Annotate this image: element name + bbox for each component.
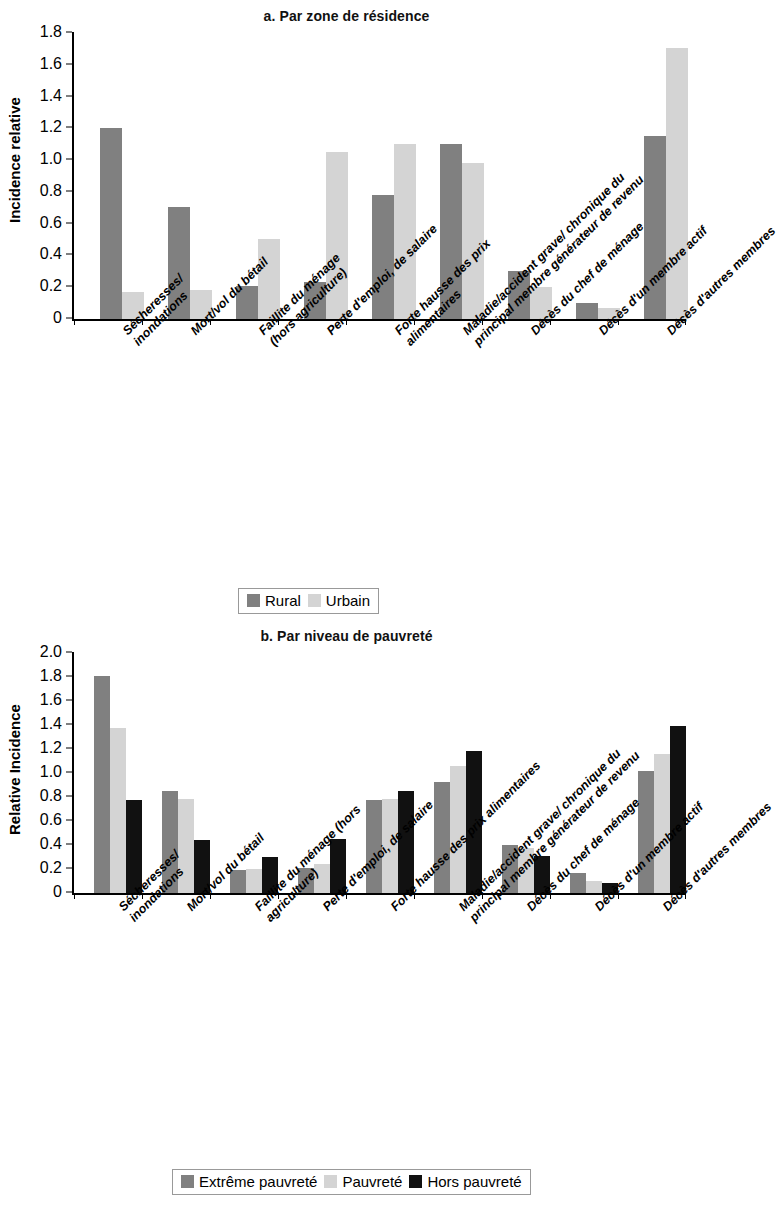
legend-swatch-icon	[247, 594, 260, 607]
panel-b-ytick-label: 1.0	[6, 763, 62, 781]
panel-a-ytick-label: 1.6	[6, 55, 62, 73]
panel-a-ytick-label: 0.4	[6, 245, 62, 263]
panel-b-ytick-label: 1.6	[6, 691, 62, 709]
panel-b-legend-item[interactable]: Hors pauvreté	[409, 1173, 521, 1190]
panel-b-bar	[246, 869, 262, 893]
panel-b-ytick-label: 0	[6, 883, 62, 901]
panel-a-xlabels: Sécheresses/ inondationsMort/vol du béta…	[74, 326, 686, 486]
panel-b-legend-item[interactable]: Extrême pauvreté	[181, 1173, 317, 1190]
panel-a-legend: RuralUrbain	[238, 588, 379, 614]
panel-b-xtick-mark	[74, 893, 75, 899]
panel-b-bar	[586, 881, 602, 893]
panel-b-xlabels: Sécheresses/ inondationsMort/vol du béta…	[74, 902, 686, 1072]
panel-a-ytick-label: 0.8	[6, 182, 62, 200]
panel-a-bar	[394, 144, 416, 319]
panel-b-ytick-label: 0.2	[6, 859, 62, 877]
panel-b-legend-label: Hors pauvreté	[427, 1173, 521, 1190]
panel-b-ytick-label: 1.8	[6, 667, 62, 685]
panel-a-bar	[666, 48, 688, 319]
legend-swatch-icon	[409, 1175, 422, 1188]
panel-a-ytick-labels: 00.20.40.60.81.01.21.41.61.8	[0, 32, 62, 318]
panel-a-legend-item[interactable]: Urbain	[308, 592, 370, 609]
panel-a-legend-label: Urbain	[326, 592, 370, 609]
panel-b-bar-group	[94, 652, 142, 893]
legend-swatch-icon	[181, 1175, 194, 1188]
panel-a-ytick-label: 1.4	[6, 87, 62, 105]
panel-a-legend-label: Rural	[265, 592, 301, 609]
panel-b-bar	[670, 726, 686, 893]
legend-swatch-icon	[324, 1175, 337, 1188]
panel-b-bar	[654, 754, 670, 893]
panel-b-ytick-label: 0.6	[6, 811, 62, 829]
panel-a-ytick-label: 1.0	[6, 150, 62, 168]
panel-b-bar	[110, 728, 126, 893]
panel-a-legend-item[interactable]: Rural	[247, 592, 301, 609]
panel-a-bar	[576, 303, 598, 319]
panel-a-xtick-mark	[74, 319, 75, 325]
panel-b-title: b. Par niveau de pauvreté	[0, 628, 693, 644]
panel-a-ytick-label: 0	[6, 309, 62, 327]
panel-b-bar	[94, 676, 110, 893]
panel-a-ytick-label: 0.6	[6, 214, 62, 232]
panel-b-ytick-label: 0.8	[6, 787, 62, 805]
panel-b: b. Par niveau de pauvreté Relative Incid…	[0, 620, 693, 1211]
panel-b-legend: Extrême pauvretéPauvretéHors pauvreté	[172, 1169, 531, 1195]
panel-a-bar	[100, 128, 122, 319]
panel-a-ytick-label: 0.2	[6, 277, 62, 295]
panel-a-ytick-label: 1.8	[6, 23, 62, 41]
panel-b-ytick-label: 2.0	[6, 643, 62, 661]
legend-swatch-icon	[308, 594, 321, 607]
panel-b-legend-label: Extrême pauvreté	[199, 1173, 317, 1190]
panel-a: a. Par zone de résidence Incidence relat…	[0, 0, 693, 620]
panel-b-ytick-labels: 00.20.40.60.81.01.21.41.61.82.0	[0, 652, 62, 892]
panel-a-bar-group	[100, 32, 144, 319]
panel-b-ytick-label: 0.4	[6, 835, 62, 853]
panel-b-ytick-label: 1.2	[6, 739, 62, 757]
panel-b-legend-label: Pauvreté	[342, 1173, 402, 1190]
panel-b-ytick-label: 1.4	[6, 715, 62, 733]
panel-a-title: a. Par zone de résidence	[0, 8, 693, 24]
panel-b-legend-item[interactable]: Pauvreté	[324, 1173, 402, 1190]
panel-a-ytick-label: 1.2	[6, 118, 62, 136]
panel-a-bar	[372, 195, 394, 319]
